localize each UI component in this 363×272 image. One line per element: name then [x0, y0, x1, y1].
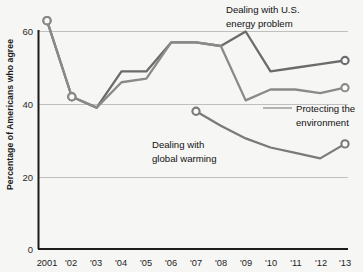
series-line-1	[47, 21, 345, 108]
annotation-energy-line2: energy problem	[226, 18, 293, 29]
x-tick-04: '04	[115, 258, 127, 268]
data-point-marker	[341, 57, 348, 64]
annotation-environment-line1: Protecting the	[296, 103, 355, 114]
annotation-warming-line2: global warming	[152, 153, 217, 164]
line-chart: Percentage of Americans who agree 60 40 …	[0, 0, 363, 272]
x-tick-07: '07	[190, 258, 202, 268]
x-tick-06: '06	[165, 258, 177, 268]
x-tick-2001: 2001	[37, 258, 58, 268]
data-point-marker	[43, 17, 50, 24]
y-tick-20: 20	[22, 172, 33, 183]
y-tick-40: 40	[22, 99, 33, 110]
annotation-energy: Dealing with U.S. energy problem	[226, 4, 300, 29]
data-point-marker	[192, 108, 199, 115]
data-point-marker	[341, 84, 348, 91]
annotation-environment: Protecting the environment	[296, 103, 355, 128]
data-point-marker	[68, 93, 75, 100]
annotation-warming: Dealing with global warming	[152, 139, 217, 164]
x-tick-05: '05	[140, 258, 152, 268]
series-line-0	[47, 21, 345, 108]
x-tick-03: '03	[90, 258, 102, 268]
chart-container: Percentage of Americans who agree 60 40 …	[0, 0, 363, 272]
data-series-layer	[43, 17, 348, 158]
annotation-warming-line1: Dealing with	[152, 139, 204, 150]
x-tick-09: '09	[240, 258, 252, 268]
y-tick-60: 60	[22, 26, 33, 37]
y-axis-title: Percentage of Americans who agree	[5, 39, 15, 190]
x-tick-labels: 2001 '02 '03 '04 '05 '06 '07 '08 '09 '10…	[37, 258, 351, 268]
x-tick-08: '08	[215, 258, 227, 268]
x-tick-11: '11	[290, 258, 301, 268]
x-tick-10: '10	[265, 258, 277, 268]
x-tick-13: '13	[339, 258, 351, 268]
y-tick-0: 0	[28, 244, 33, 255]
data-point-marker	[341, 140, 348, 147]
y-tick-labels: 60 40 20 0	[22, 26, 33, 255]
annotation-environment-line2: environment	[296, 117, 349, 128]
annotation-energy-line1: Dealing with U.S.	[226, 4, 300, 15]
x-tick-12: '12	[315, 258, 327, 268]
x-tick-02: '02	[65, 258, 77, 268]
